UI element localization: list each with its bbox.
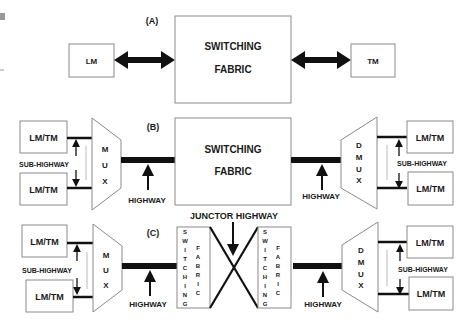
svg-text:B: B bbox=[196, 263, 201, 269]
svg-text:C: C bbox=[196, 290, 201, 296]
highway-label: HIGHWAY bbox=[302, 192, 340, 201]
dmux-letter: D bbox=[356, 141, 362, 150]
highway-label: HIGHWAY bbox=[304, 300, 342, 309]
svg-text:B: B bbox=[276, 263, 281, 269]
panel-b: (B) LM/TM LM/TM SUB-HIGHWAY M U X HIGHWA… bbox=[19, 117, 453, 210]
highway-line bbox=[291, 157, 341, 163]
edge-artifact bbox=[0, 13, 5, 20]
lm-tm-label: LM/TM bbox=[417, 289, 446, 299]
switching-fabric-box bbox=[175, 118, 291, 205]
svg-text:H: H bbox=[263, 274, 267, 280]
highway-line bbox=[121, 157, 175, 163]
panel-c-label: (C) bbox=[147, 228, 160, 238]
junctor-highway-label: JUNCTOR HIGHWAY bbox=[190, 211, 278, 221]
tm-label: TM bbox=[367, 57, 379, 66]
svg-text:R: R bbox=[196, 272, 201, 278]
sub-highway-label: SUB-HIGHWAY bbox=[397, 160, 447, 167]
mux-letter: M bbox=[102, 145, 109, 154]
svg-text:A: A bbox=[196, 254, 201, 260]
lm-tm-label: LM/TM bbox=[416, 184, 445, 194]
sub-highway-label: SUB-HIGHWAY bbox=[19, 161, 69, 168]
highway-label: HIGHWAY bbox=[128, 196, 166, 205]
svg-text:C: C bbox=[276, 290, 281, 296]
fabric-line2: FABRIC bbox=[214, 64, 251, 75]
svg-text:H: H bbox=[183, 274, 187, 280]
diagram-canvas: (A) LM SWITCHING FABRIC TM (B) LM/TM LM/… bbox=[0, 0, 475, 328]
svg-text:R: R bbox=[276, 272, 281, 278]
svg-text:G: G bbox=[183, 301, 188, 307]
svg-text:S: S bbox=[263, 229, 267, 235]
svg-text:T: T bbox=[183, 256, 187, 262]
highway-line bbox=[293, 263, 342, 269]
dmux bbox=[341, 117, 377, 209]
dmux-letter: D bbox=[358, 246, 364, 255]
mux-letter: U bbox=[102, 161, 108, 170]
svg-text:S: S bbox=[183, 229, 187, 235]
dmux-letter: M bbox=[356, 153, 363, 162]
dmux bbox=[342, 222, 378, 312]
sub-highway-label: SUB-HIGHWAY bbox=[22, 267, 72, 274]
dmux-letter: U bbox=[358, 270, 364, 279]
svg-text:N: N bbox=[263, 292, 267, 298]
fabric-line1: SWITCHING bbox=[204, 41, 261, 52]
panel-b-label: (B) bbox=[147, 122, 160, 132]
mux-letter: M bbox=[103, 251, 110, 260]
highway-label: HIGHWAY bbox=[129, 300, 167, 309]
mux-letter: X bbox=[102, 177, 108, 186]
panel-a: (A) LM SWITCHING FABRIC TM bbox=[69, 16, 395, 103]
svg-text:G: G bbox=[263, 301, 268, 307]
svg-text:W: W bbox=[262, 238, 268, 244]
highway-line bbox=[122, 263, 177, 269]
svg-text:F: F bbox=[276, 245, 280, 251]
lm-tm-label: LM/TM bbox=[416, 238, 445, 248]
svg-text:C: C bbox=[183, 265, 188, 271]
dmux-letter: X bbox=[358, 281, 364, 290]
fabric-line2: FABRIC bbox=[214, 166, 251, 177]
mux-letter: X bbox=[103, 281, 109, 290]
dmux-letter: X bbox=[356, 176, 362, 185]
dmux-letter: M bbox=[358, 258, 365, 267]
lm-tm-label: LM/TM bbox=[416, 133, 445, 143]
sub-highway-label: SUB-HIGHWAY bbox=[398, 266, 448, 273]
bidirectional-arrow-icon bbox=[114, 51, 175, 69]
svg-text:A: A bbox=[276, 254, 281, 260]
svg-text:W: W bbox=[182, 238, 188, 244]
lm-label: LM bbox=[86, 57, 98, 66]
panel-a-label: (A) bbox=[146, 16, 159, 26]
switching-fabric-box bbox=[175, 16, 291, 103]
dmux-letter: U bbox=[356, 165, 362, 174]
lm-tm-label: LM/TM bbox=[29, 185, 58, 195]
bidirectional-arrow-icon bbox=[291, 51, 351, 69]
svg-text:F: F bbox=[196, 245, 200, 251]
panel-c: (C) JUNCTOR HIGHWAY LM/TM LM/TM SUB-HIGH… bbox=[22, 211, 453, 312]
svg-text:T: T bbox=[263, 256, 267, 262]
lm-tm-label: LM/TM bbox=[35, 292, 64, 302]
fabric-line1: SWITCHING bbox=[204, 144, 261, 155]
mux-letter: U bbox=[103, 266, 109, 275]
lm-tm-label: LM/TM bbox=[30, 237, 59, 247]
svg-text:C: C bbox=[263, 265, 268, 271]
svg-text:N: N bbox=[183, 292, 187, 298]
lm-tm-label: LM/TM bbox=[29, 133, 58, 143]
